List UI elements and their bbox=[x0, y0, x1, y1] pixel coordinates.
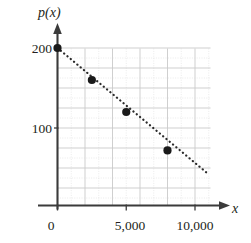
axis-lines bbox=[38, 23, 230, 211]
figure-root: ) p(x) x 200 100 0 5,000 10,000 bbox=[0, 0, 251, 243]
data-point-0 bbox=[53, 44, 61, 52]
data-point-1 bbox=[88, 76, 96, 84]
data-point-3 bbox=[163, 146, 171, 154]
data-point-2 bbox=[122, 108, 130, 116]
plot-canvas bbox=[0, 0, 251, 243]
trend-line-1 bbox=[58, 48, 209, 174]
grid-minor-lines bbox=[58, 49, 209, 206]
grid-major-lines bbox=[58, 48, 211, 198]
trend-line-dotted bbox=[58, 48, 209, 174]
